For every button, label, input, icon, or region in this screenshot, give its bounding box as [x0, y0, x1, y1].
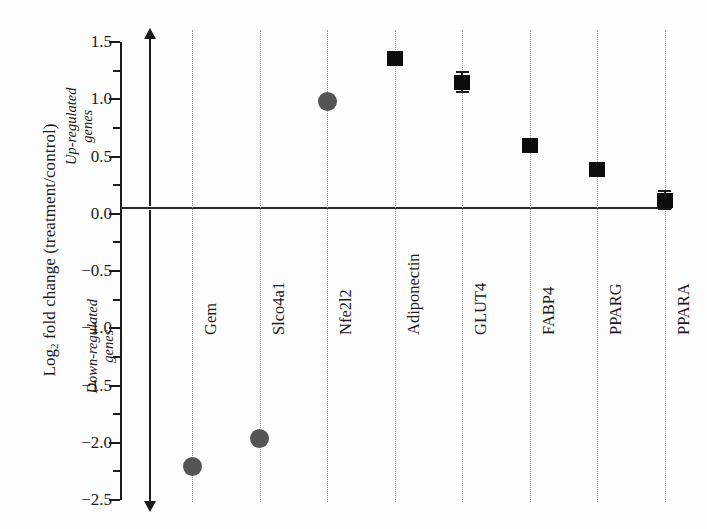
gene-label-ppara: PPARA	[674, 283, 694, 335]
data-point-pparg	[589, 162, 605, 177]
category-gridline	[462, 30, 463, 502]
category-gridline	[192, 30, 193, 502]
arrow-head-down-icon	[144, 501, 156, 512]
y-tick-label: −2.5	[64, 491, 112, 508]
y-tick-major	[109, 213, 120, 215]
up-regulated-annotation: Up-regulated genes	[63, 21, 95, 231]
gene-label-adiponectin: Adiponectin	[404, 253, 424, 335]
down-regulated-arrow-icon	[149, 210, 151, 502]
category-gridline	[395, 30, 396, 502]
y-tick-minor	[113, 184, 120, 186]
y-tick-major	[109, 98, 120, 100]
gene-label-glut4: GLUT4	[471, 283, 491, 335]
arrow-head-up-icon	[144, 28, 156, 39]
data-point-ppara	[657, 193, 673, 208]
y-tick-major	[109, 41, 120, 43]
data-point-slco4a1	[250, 429, 269, 448]
data-point-glut4	[454, 75, 470, 90]
y-tick-minor	[113, 70, 120, 72]
error-bar-cap	[456, 71, 469, 73]
y-tick-major	[109, 156, 120, 158]
down-regulated-line2: genes	[100, 330, 116, 363]
gene-label-pparg: PPARG	[606, 283, 626, 335]
y-tick-major	[109, 499, 120, 501]
gene-label-nfe2l2: Nfe2l2	[336, 289, 356, 335]
y-tick-minor	[113, 127, 120, 129]
gene-label-fabp4: FABP4	[539, 287, 559, 335]
data-point-nfe2l2	[318, 92, 337, 111]
y-tick-minor	[113, 470, 120, 472]
data-point-fabp4	[522, 138, 538, 153]
error-bar-cap	[456, 91, 469, 93]
error-bar-cap	[658, 208, 671, 210]
up-regulated-arrow-icon	[149, 38, 151, 206]
log2-fold-change-scatter-chart: Log2 fold change (treatment/control) 1.5…	[0, 0, 707, 529]
up-regulated-line1: Up-regulated	[63, 87, 79, 165]
data-point-gem	[183, 457, 202, 476]
data-point-adiponectin	[387, 51, 403, 66]
category-gridline	[530, 30, 531, 502]
down-regulated-line1: Down-regulated	[84, 299, 100, 394]
zero-reference-line	[120, 207, 672, 209]
gene-label-gem: Gem	[201, 303, 221, 335]
y-axis-spine	[120, 42, 122, 500]
category-gridline	[665, 30, 666, 502]
gene-label-slco4a1: Slco4a1	[269, 282, 289, 335]
category-gridline	[597, 30, 598, 502]
up-regulated-line2: genes	[79, 110, 95, 143]
down-regulated-annotation: Down-regulated genes	[84, 231, 116, 461]
